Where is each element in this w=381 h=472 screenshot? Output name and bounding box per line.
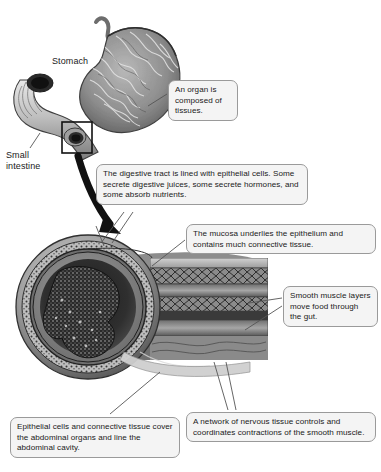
stomach-illustration — [80, 18, 180, 132]
label-small-intestine: Small intestine — [6, 150, 40, 172]
label-stomach: Stomach — [52, 56, 88, 67]
intestine-cross-section — [16, 235, 268, 379]
callout-digestive-tract: The digestive tract is lined with epithe… — [96, 164, 308, 205]
figure-canvas: Stomach Small intestine An organ is comp… — [0, 0, 381, 472]
leader-small-intestine — [30, 133, 40, 148]
callout-organ: An organ is composed of tissues. — [168, 80, 238, 121]
callout-smooth-muscle: Smooth muscle layers move food through t… — [283, 286, 378, 327]
callout-epithelial-serosa: Epithelial cells and connective tissue c… — [10, 417, 180, 458]
callout-mucosa: The mucosa underlies the epithelium and … — [186, 224, 376, 254]
callout-nervous-network: A network of nervous tissue controls and… — [186, 412, 376, 442]
leader-tract-right — [112, 212, 133, 243]
leader-epithelial — [110, 372, 160, 414]
cutaway-layers — [150, 258, 268, 360]
